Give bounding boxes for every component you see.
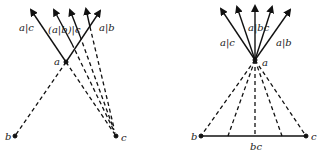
label-c-left: c [121, 132, 127, 143]
dashed-a-to-b [15, 62, 66, 136]
dashed-int3-to-c [90, 27, 114, 128]
arrow-r-1 [221, 9, 255, 60]
label-a-given-bc-right: a|bc [248, 22, 270, 34]
arrow-a-given-b [66, 11, 100, 62]
arrow-intermediate-3 [86, 9, 90, 27]
arrow-r-2 [237, 7, 255, 60]
dashed-a-to-b-right [201, 60, 255, 136]
node-c-left [114, 134, 118, 138]
arrow-r-4 [255, 7, 272, 60]
dashed-a-to-m1 [228, 60, 255, 136]
dashed-a-to-m3 [255, 60, 282, 136]
arrow-r-5 [255, 10, 290, 60]
label-a-left: a [54, 56, 60, 67]
dashed-a-to-c-right [255, 60, 306, 136]
dashed-int2-to-c [80, 36, 114, 130]
label-a-given-b-right: a|b [276, 37, 292, 49]
conditioning-diagrams: a|c (a|b)|c a|b a b c a|c a|bc a|b a b c… [0, 0, 319, 157]
label-b-left: b [5, 131, 11, 142]
arrow-a-given-c [31, 10, 66, 62]
label-a-given-c-right: a|c [220, 37, 235, 49]
label-b-right: b [191, 131, 197, 142]
dashed-int1-to-c [72, 44, 115, 133]
label-a-given-b-given-c-left: (a|b)|c [48, 24, 81, 36]
label-bc-right: bc [250, 141, 262, 152]
label-a-given-b-left: a|b [99, 22, 115, 34]
node-b-right [199, 134, 203, 138]
node-a-left [64, 60, 68, 64]
label-c-right: c [311, 131, 317, 142]
node-a-right [253, 58, 257, 62]
dashed-a-to-c [66, 62, 116, 136]
label-a-right: a [262, 57, 268, 68]
node-c-right [304, 134, 308, 138]
label-a-given-c-left: a|c [19, 22, 34, 34]
node-b-left [13, 134, 17, 138]
